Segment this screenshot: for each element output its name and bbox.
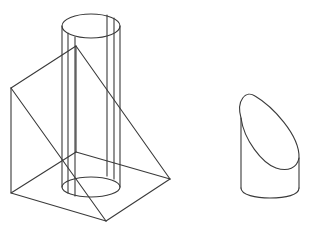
cylinder-wireframe [62, 14, 120, 197]
wedge-wireframe [11, 46, 170, 221]
diagram-svg [0, 0, 309, 240]
wedge-base-left-edge [11, 152, 76, 193]
wedge-base-right-edge [106, 179, 170, 221]
cylinder-bottom-ellipse [62, 177, 120, 197]
cylinder-top-ellipse [62, 14, 120, 38]
cut-cylinder-oblique-face [240, 94, 299, 169]
diagram-canvas [0, 0, 309, 240]
wedge-base-back-edge [76, 152, 170, 179]
cut-cylinder-base-curve [241, 188, 299, 198]
cut-cylinder [240, 94, 299, 198]
wedge-slope-front-edge [11, 88, 106, 221]
wedge-slope-back-edge [76, 46, 170, 179]
wedge-top-left-edge [11, 46, 76, 88]
